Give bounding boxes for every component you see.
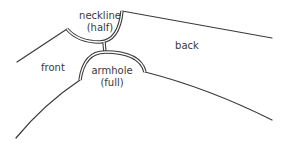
back-side-curve [145, 72, 272, 120]
armhole-label: armhole (full) [88, 65, 136, 89]
neckline-label-line2: (half) [75, 22, 125, 34]
front-label-text: front [41, 62, 65, 73]
armhole-label-line2: (full) [88, 77, 136, 89]
armhole-label-line1: armhole [88, 65, 136, 77]
back-label-text: back [175, 40, 199, 51]
neckline-label-line1: neckline [75, 10, 125, 22]
front-shoulder-line [17, 29, 67, 62]
back-shoulder-line [122, 11, 272, 38]
garment-pattern-diagram [0, 0, 286, 149]
front-side-curve [16, 80, 80, 138]
front-label: front [36, 62, 70, 74]
back-label: back [170, 40, 204, 52]
neckline-label: neckline (half) [75, 10, 125, 34]
